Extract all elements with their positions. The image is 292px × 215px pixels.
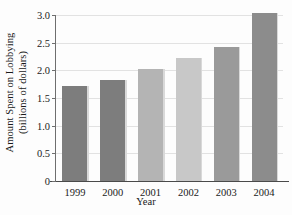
bar-2002[interactable] <box>176 58 201 181</box>
y-tick-mark <box>52 15 56 16</box>
y-tick-mark <box>52 181 56 182</box>
bar-2004[interactable] <box>252 13 277 181</box>
gridline <box>56 126 283 127</box>
y-tick-label: 0 <box>45 176 50 187</box>
gridline <box>56 43 283 44</box>
gridline <box>56 153 283 154</box>
bar-chart-figure: Amount Spent on Lobbying (billions of do… <box>0 0 292 215</box>
y-tick-label: 2.5 <box>37 37 50 48</box>
x-axis-title: Year <box>0 196 292 207</box>
gridline <box>56 70 283 71</box>
y-tick-label: 0.5 <box>37 148 50 159</box>
y-axis-title: Amount Spent on Lobbying (billions of do… <box>0 0 34 185</box>
gridline <box>56 15 283 16</box>
y-tick-mark <box>52 98 56 99</box>
y-tick-mark <box>52 43 56 44</box>
y-tick-label: 2.0 <box>37 65 50 76</box>
bar-2001[interactable] <box>138 69 163 181</box>
y-tick-mark <box>52 70 56 71</box>
y-axis-title-line1: Amount Spent on Lobbying <box>5 33 18 153</box>
plot-area: 00.51.01.52.02.53.0 19992000200120022003… <box>56 15 283 181</box>
y-tick-mark <box>52 126 56 127</box>
y-tick-mark <box>52 153 56 154</box>
bar-2003[interactable] <box>214 47 239 181</box>
bar-2000[interactable] <box>100 80 125 181</box>
y-tick-label: 1.5 <box>37 93 50 104</box>
y-axis-title-text: Amount Spent on Lobbying (billions of do… <box>5 33 30 153</box>
y-axis-title-line2: (billions of dollars) <box>17 33 30 153</box>
y-tick-label: 1.0 <box>37 120 50 131</box>
y-tick-label: 3.0 <box>37 10 50 21</box>
bar-1999[interactable] <box>62 86 87 181</box>
x-axis-line <box>50 181 289 182</box>
gridline <box>56 98 283 99</box>
